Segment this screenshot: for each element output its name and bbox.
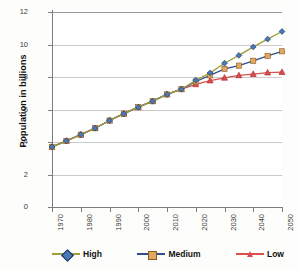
y-axis-title: Population in billions: [18, 26, 28, 176]
x-tick-mark: [253, 208, 254, 212]
x-tick-mark: [167, 208, 168, 212]
x-tick-label: 1970: [56, 214, 65, 231]
legend-label-medium: Medium: [168, 249, 200, 259]
square-marker-icon: [148, 251, 157, 260]
gridline: [52, 175, 282, 176]
gridline: [52, 12, 282, 13]
x-tick-mark: [81, 208, 82, 212]
x-tick-label: 1990: [114, 214, 123, 231]
x-tick-mark: [196, 208, 197, 212]
y-axis-line: [52, 10, 53, 208]
x-tick-mark: [225, 208, 226, 212]
x-tick-label: 1980: [85, 214, 94, 231]
x-tick-label: 2000: [142, 214, 151, 231]
gridline: [52, 142, 282, 143]
legend-item-low[interactable]: Low: [236, 249, 284, 259]
chart-legend: High Medium Low: [52, 246, 284, 262]
legend-swatch-high: [52, 249, 80, 259]
y-tick-label: 0: [10, 203, 28, 211]
gridline: [52, 45, 282, 46]
x-tick-mark: [282, 208, 283, 212]
legend-item-medium[interactable]: Medium: [137, 249, 200, 259]
y-tick: 12: [0, 8, 50, 16]
legend-item-high[interactable]: High: [52, 249, 102, 259]
legend-label-high: High: [83, 249, 102, 259]
x-tick-mark: [110, 208, 111, 212]
triangle-marker-icon: [247, 251, 253, 257]
x-tick-mark: [52, 208, 53, 212]
x-tick-label: 2010: [171, 214, 180, 231]
x-tick-label: 2030: [229, 214, 238, 231]
gridline: [52, 110, 282, 111]
legend-swatch-low: [236, 249, 264, 259]
legend-label-low: Low: [267, 249, 284, 259]
y-tick-label: 12: [10, 8, 28, 16]
legend-swatch-medium: [137, 249, 165, 259]
gridline: [52, 77, 282, 78]
x-tick-label: 2020: [200, 214, 209, 231]
y-tick: 0: [0, 203, 50, 211]
x-tick-label: 2050: [286, 214, 295, 231]
x-tick-label: 2040: [257, 214, 266, 231]
x-tick-mark: [138, 208, 139, 212]
diamond-marker-icon: [61, 249, 74, 262]
population-projection-chart: 121086420 Population in billions 1970198…: [0, 0, 299, 270]
